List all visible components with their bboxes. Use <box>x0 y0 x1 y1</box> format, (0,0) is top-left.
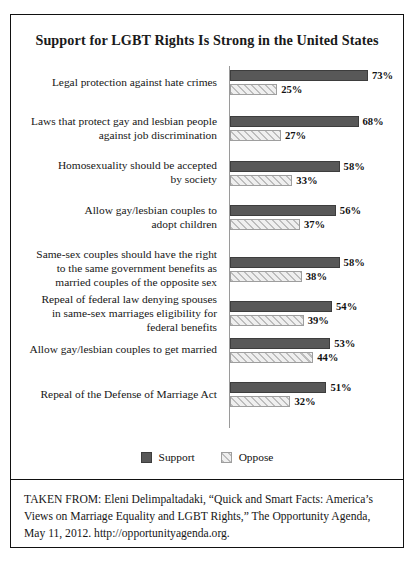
bar-row-label-line: Same-sex couples should have the right <box>11 248 217 262</box>
bar-row-label: Allow gay/lesbian couples to get married <box>11 343 223 357</box>
bar-row: Repeal of federal law denying spousesin … <box>11 293 403 335</box>
bar-row: Repeal of the Defense of Marriage Act51%… <box>11 382 403 407</box>
bar-row: Allow gay/lesbian couples to get married… <box>11 338 403 363</box>
bar-value-oppose: 37% <box>304 219 325 230</box>
bar-value-oppose: 44% <box>317 352 338 363</box>
bar-row-label-line: against job discrimination <box>11 129 217 143</box>
bar-oppose <box>230 396 290 407</box>
bar-row-bars: 53%44% <box>223 338 403 363</box>
bar-row-label-line: Homosexuality should be accepted <box>11 159 217 173</box>
bar-oppose <box>230 352 313 363</box>
bar-value-support: 54% <box>336 301 357 312</box>
bar-row-bars: 58%38% <box>223 257 403 282</box>
bar-value-support: 53% <box>334 338 355 349</box>
bar-line-oppose: 44% <box>230 352 403 363</box>
bar-value-oppose: 32% <box>294 396 315 407</box>
bar-line-oppose: 33% <box>230 175 403 186</box>
legend-swatch-support-icon <box>141 452 152 463</box>
bar-support <box>230 338 330 349</box>
bar-row-bars: 58%33% <box>223 161 403 186</box>
bar-line-support: 54% <box>230 301 403 312</box>
bar-value-oppose: 27% <box>285 130 306 141</box>
bar-rows: Legal protection against hate crimes73%2… <box>11 66 403 428</box>
bar-row: Same-sex couples should have the rightto… <box>11 248 403 290</box>
bar-value-oppose: 38% <box>306 271 327 282</box>
bar-value-support: 56% <box>340 205 361 216</box>
chart-area: Support for LGBT Rights Is Strong in the… <box>11 15 403 479</box>
bar-chart-plot: Legal protection against hate crimes73%2… <box>11 66 403 428</box>
bar-row-label: Legal protection against hate crimes <box>11 76 223 90</box>
bar-row: Homosexuality should be acceptedby socie… <box>11 159 403 187</box>
bar-support <box>230 70 368 81</box>
bar-row: Legal protection against hate crimes73%2… <box>11 70 403 95</box>
legend-label-oppose: Oppose <box>239 451 274 463</box>
bar-row-label: Repeal of federal law denying spousesin … <box>11 293 223 335</box>
legend-item-support: Support <box>141 451 195 463</box>
bar-support <box>230 205 336 216</box>
bar-row-label: Same-sex couples should have the rightto… <box>11 248 223 290</box>
bar-line-support: 53% <box>230 338 403 349</box>
bar-value-oppose: 25% <box>281 84 302 95</box>
bar-row-bars: 54%39% <box>223 301 403 326</box>
bar-line-support: 73% <box>230 70 403 81</box>
bar-row-label-line: to the same government benefits as <box>11 262 217 276</box>
bar-row-label-line: married couples of the opposite sex <box>11 276 217 290</box>
bar-row-label: Repeal of the Defense of Marriage Act <box>11 388 223 402</box>
legend-label-support: Support <box>159 451 195 463</box>
bar-oppose <box>230 315 304 326</box>
bar-row-label-line: Laws that protect gay and lesbian people <box>11 115 217 129</box>
bar-row-label: Homosexuality should be acceptedby socie… <box>11 159 223 187</box>
bar-support <box>230 161 340 172</box>
bar-row-bars: 68%27% <box>223 116 403 141</box>
bar-line-oppose: 38% <box>230 271 403 282</box>
bar-row-label-line: adopt children <box>11 218 217 232</box>
figure-container: Support for LGBT Rights Is Strong in the… <box>10 14 404 548</box>
bar-line-oppose: 32% <box>230 396 403 407</box>
source-citation: TAKEN FROM: Eleni Delimpaltadaki, “Quick… <box>11 480 403 543</box>
bar-row-label: Allow gay/lesbian couples toadopt childr… <box>11 204 223 232</box>
bar-oppose <box>230 175 292 186</box>
bar-support <box>230 301 332 312</box>
bar-row-label-line: Allow gay/lesbian couples to <box>11 204 217 218</box>
bar-line-support: 58% <box>230 257 403 268</box>
bar-line-oppose: 25% <box>230 84 403 95</box>
bar-value-oppose: 39% <box>308 315 329 326</box>
bar-line-oppose: 27% <box>230 130 403 141</box>
chart-legend: Support Oppose <box>11 451 403 463</box>
bar-value-oppose: 33% <box>296 175 317 186</box>
bar-oppose <box>230 130 281 141</box>
chart-title: Support for LGBT Rights Is Strong in the… <box>11 15 403 49</box>
bar-row-label-line: Repeal of federal law denying spouses <box>11 293 217 307</box>
bar-row-label-line: by society <box>11 173 217 187</box>
bar-value-support: 68% <box>363 116 384 127</box>
bar-value-support: 58% <box>344 161 365 172</box>
bar-oppose <box>230 84 277 95</box>
bar-row-label-line: federal benefits <box>11 321 217 335</box>
bar-line-support: 58% <box>230 161 403 172</box>
bar-oppose <box>230 271 302 282</box>
bar-oppose <box>230 219 300 230</box>
bar-row: Allow gay/lesbian couples toadopt childr… <box>11 204 403 232</box>
bar-row-label-line: Allow gay/lesbian couples to get married <box>11 343 217 357</box>
legend-item-oppose: Oppose <box>221 451 274 463</box>
bar-row-bars: 51%32% <box>223 382 403 407</box>
bar-value-support: 73% <box>372 70 393 81</box>
legend-swatch-oppose-icon <box>221 452 232 463</box>
bar-line-support: 56% <box>230 205 403 216</box>
bar-line-support: 68% <box>230 116 403 127</box>
bar-value-support: 58% <box>344 257 365 268</box>
bar-value-support: 51% <box>330 382 351 393</box>
bar-row-label-line: in same-sex marriages eligibility for <box>11 307 217 321</box>
bar-support <box>230 116 359 127</box>
bar-row-label-line: Legal protection against hate crimes <box>11 76 217 90</box>
bar-support <box>230 257 340 268</box>
bar-line-support: 51% <box>230 382 403 393</box>
bar-row-bars: 73%25% <box>223 70 403 95</box>
bar-row-label-line: Repeal of the Defense of Marriage Act <box>11 388 217 402</box>
bar-line-oppose: 39% <box>230 315 403 326</box>
bar-row-label: Laws that protect gay and lesbian people… <box>11 115 223 143</box>
bar-row-bars: 56%37% <box>223 205 403 230</box>
bar-row: Laws that protect gay and lesbian people… <box>11 115 403 143</box>
bar-support <box>230 382 326 393</box>
bar-line-oppose: 37% <box>230 219 403 230</box>
